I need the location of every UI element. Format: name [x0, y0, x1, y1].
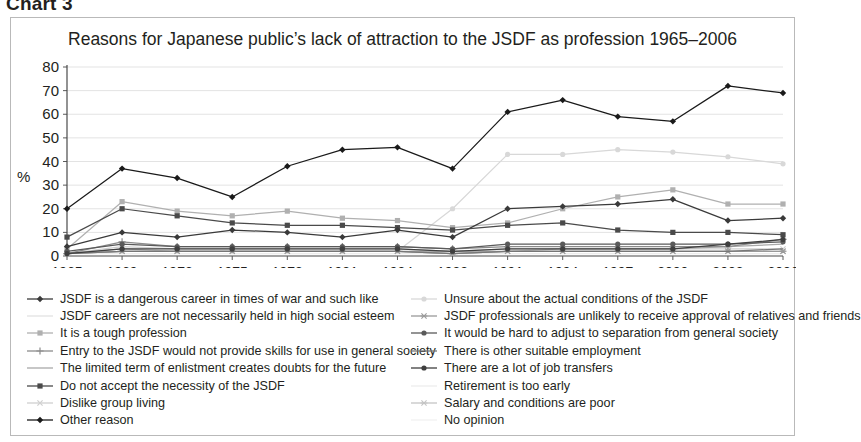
chart-legend: JSDF is a dangerous career in times of w… [25, 290, 782, 430]
data-point [505, 242, 510, 247]
legend-item: Entry to the JSDF would not provide skil… [25, 342, 409, 359]
x-tick-label: 2006 [767, 264, 796, 268]
series-2 [64, 187, 785, 251]
legend-key-icon [409, 361, 439, 375]
legend-item: Unsure about the actual conditions of th… [409, 290, 782, 307]
legend-label: The limited term of enlistment creates d… [60, 361, 386, 375]
series-0 [64, 196, 786, 250]
data-point [670, 149, 675, 154]
data-point [285, 246, 290, 251]
data-point [37, 295, 43, 301]
data-point [394, 144, 400, 150]
data-point [504, 206, 510, 212]
y-tick-label: 40 [42, 153, 59, 170]
data-point [615, 147, 620, 152]
data-point [64, 235, 69, 240]
data-point [119, 199, 124, 204]
data-point [780, 215, 786, 221]
series-5 [64, 206, 785, 240]
data-point [284, 229, 290, 235]
legend-key-icon [25, 344, 55, 358]
legend-key-icon [409, 344, 439, 358]
data-point [725, 217, 731, 223]
data-point [174, 234, 180, 240]
series-line [67, 150, 783, 254]
data-point [339, 234, 345, 240]
x-tick-label: 1991 [492, 264, 523, 268]
legend-key-icon [409, 326, 439, 340]
x-tick-label: 2000 [657, 264, 688, 268]
legend-item: The limited term of enlistment creates d… [25, 360, 409, 377]
data-point [421, 400, 428, 405]
legend-label: There is other suitable employment [444, 344, 641, 358]
legend-item: It would be hard to adjust to separation… [409, 325, 782, 342]
x-tick-label: 1969 [106, 264, 137, 268]
data-point [615, 201, 621, 207]
data-point [421, 366, 426, 371]
x-tick-label: 1994 [547, 264, 578, 268]
data-point [37, 383, 42, 388]
y-tick-label: 10 [42, 223, 59, 240]
data-point [284, 163, 290, 169]
data-point [725, 154, 730, 159]
legend-item: No opinion [409, 412, 782, 429]
data-point [560, 152, 565, 157]
legend-label: Dislike group living [60, 396, 165, 410]
series-line [67, 199, 783, 246]
data-point [505, 246, 510, 251]
x-tick-label: 1984 [382, 264, 413, 268]
x-tick-label: 1988 [437, 264, 468, 268]
data-point [421, 331, 426, 336]
legend-label: JSDF is a dangerous career in times of w… [60, 292, 378, 306]
data-point [36, 347, 43, 354]
x-tick-label: 1975 [217, 264, 248, 268]
x-tick-label: 1978 [272, 264, 303, 268]
legend-label: It is a tough profession [60, 326, 187, 340]
y-tick-label: 80 [42, 58, 59, 75]
data-point [421, 296, 426, 301]
data-point [175, 213, 180, 218]
y-tick-label: 0 [51, 247, 59, 264]
data-point [421, 313, 428, 318]
data-point [670, 242, 675, 247]
data-point [119, 206, 124, 211]
data-point [450, 227, 455, 232]
data-point [229, 194, 235, 200]
legend-label: Retirement is too early [444, 379, 570, 393]
legend-item: Salary and conditions are poor [409, 394, 782, 411]
data-point [174, 175, 180, 181]
data-point [175, 246, 180, 251]
x-tick-label: 1997 [602, 264, 633, 268]
x-tick-label: 2003 [712, 264, 743, 268]
legend-label: No opinion [444, 413, 504, 427]
chart-caption: Chart 3 [6, 0, 73, 15]
data-point [340, 223, 345, 228]
x-tick-label: 1981 [327, 264, 358, 268]
legend-key-icon [25, 413, 55, 427]
legend-key-icon [409, 309, 439, 323]
data-point [615, 227, 620, 232]
data-point [559, 97, 565, 103]
data-point [37, 331, 42, 336]
legend-item: JSDF is a dangerous career in times of w… [25, 290, 409, 307]
data-point [670, 118, 676, 124]
series-line [67, 190, 783, 249]
data-point [505, 223, 510, 228]
legend-item: Other reason [25, 412, 409, 429]
data-point [119, 229, 125, 235]
legend-label: JSDF careers are not necessarily held in… [60, 309, 395, 323]
legend-item: There are a lot of job transfers [409, 360, 782, 377]
data-point [340, 246, 345, 251]
data-point [560, 242, 565, 247]
y-tick-label: 30 [42, 176, 59, 193]
legend-key-icon [25, 396, 55, 410]
figure-container: Reasons for Japanese public’s lack of at… [10, 17, 795, 436]
series-7 [64, 83, 786, 212]
x-tick-label: 1972 [162, 264, 193, 268]
data-point [395, 218, 400, 223]
legend-key-icon [409, 413, 439, 427]
x-tick-label: 1965 [51, 264, 82, 268]
legend-key-icon [409, 379, 439, 393]
data-point [450, 249, 455, 254]
data-point [615, 242, 620, 247]
